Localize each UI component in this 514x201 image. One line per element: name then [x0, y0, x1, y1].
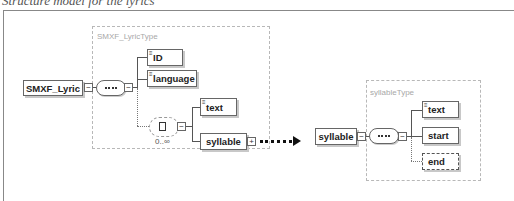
collapse-icon[interactable]: −	[84, 83, 93, 92]
syllable-text-element[interactable]: ≡ text	[422, 101, 459, 118]
collapse-icon[interactable]: −	[124, 83, 133, 92]
connector-optional	[137, 126, 149, 127]
syllable-text-label: text	[428, 104, 445, 115]
reference-arrow	[260, 140, 292, 143]
connector	[137, 79, 147, 80]
connector	[411, 136, 422, 137]
syllable-element[interactable]: syllable	[315, 128, 357, 145]
start-label: start	[428, 130, 449, 141]
connector	[411, 110, 412, 137]
expand-icon[interactable]: +	[247, 137, 256, 146]
connector	[137, 57, 147, 58]
arrow-head-icon	[293, 136, 301, 146]
connector-optional	[411, 161, 422, 162]
collapse-icon[interactable]: −	[357, 132, 366, 141]
choice-cardinality: 0..∞	[155, 137, 170, 146]
start-element[interactable]: start	[422, 127, 459, 144]
sequence-compositor[interactable]	[369, 128, 399, 144]
connector-optional	[137, 88, 138, 126]
end-label: end	[428, 156, 445, 167]
connector-optional	[411, 137, 412, 161]
connector	[137, 57, 138, 88]
collapse-icon[interactable]: −	[398, 132, 407, 141]
lyric-type-label: SMXF_LyricType	[97, 32, 158, 41]
smxf-lyric-element[interactable]: SMXF_Lyric	[23, 80, 83, 96]
id-element[interactable]: ≡ ID	[147, 49, 183, 66]
smxf-lyric-label: SMXF_Lyric	[26, 83, 80, 94]
language-label: language	[153, 73, 195, 84]
text-label: text	[206, 102, 223, 113]
syllable-type-label: syllableType	[370, 88, 414, 97]
connector	[192, 107, 200, 108]
syllable-ref-label: syllable	[206, 136, 241, 147]
connector	[411, 110, 422, 111]
collapse-icon[interactable]: −	[177, 122, 186, 131]
syllable-ref-element[interactable]: syllable	[200, 133, 247, 150]
sequence-dots-icon	[378, 135, 390, 137]
sequence-compositor[interactable]	[96, 80, 126, 96]
id-label: ID	[153, 52, 163, 63]
connector	[192, 107, 193, 141]
connector	[192, 141, 200, 142]
end-element[interactable]: end	[422, 153, 459, 170]
sequence-dots-icon	[105, 87, 117, 89]
language-element[interactable]: ≡ language	[147, 70, 197, 87]
text-element[interactable]: ≡ text	[200, 98, 237, 116]
diagram-caption: Structure model for the lyrics	[2, 0, 155, 9]
syllable-label: syllable	[319, 131, 354, 142]
choice-icon	[159, 122, 166, 131]
